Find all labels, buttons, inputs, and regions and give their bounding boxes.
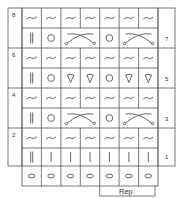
circle-icon — [48, 115, 55, 122]
knitting-chart: 8 6 4 2 7 5 3 1 — [0, 0, 193, 198]
cable-cross-icon — [65, 34, 95, 45]
cable-cross-icon — [123, 34, 153, 45]
purl-wave-icon — [104, 57, 114, 59]
purl-wave-icon — [85, 137, 95, 139]
row-3 — [31, 113, 154, 125]
circle-icon — [106, 115, 113, 122]
row-label-3: 3 — [165, 116, 169, 122]
teardrop-icon — [126, 74, 132, 82]
row-7 — [31, 33, 154, 45]
purl-wave-icon — [46, 57, 56, 59]
circle-icon — [48, 75, 55, 82]
row-2 — [27, 137, 154, 139]
row-1 — [31, 152, 149, 163]
purl-wave-icon — [143, 137, 153, 139]
circle-icon — [106, 75, 113, 82]
row-label-7: 7 — [165, 36, 169, 42]
row-label-8: 8 — [12, 12, 16, 18]
purl-wave-icon — [143, 17, 153, 19]
purl-wave-icon — [85, 57, 95, 59]
teardrop-icon — [87, 74, 93, 82]
purl-wave-icon — [46, 97, 56, 99]
teardrop-icon — [145, 74, 151, 82]
purl-wave-icon — [46, 137, 56, 139]
row-label-4: 4 — [12, 92, 16, 98]
purl-wave-icon — [124, 137, 134, 139]
oval-icon — [48, 174, 55, 178]
circle-icon — [48, 35, 55, 42]
row-cast-on — [28, 174, 151, 178]
purl-wave-icon — [66, 137, 76, 139]
row-4 — [27, 97, 154, 99]
row-label-2: 2 — [12, 132, 16, 138]
oval-icon — [87, 174, 94, 178]
purl-wave-icon — [66, 97, 76, 99]
repeat-label: Rep — [119, 187, 133, 196]
double-bar-icon — [31, 73, 33, 84]
purl-wave-icon — [124, 57, 134, 59]
purl-wave-icon — [27, 97, 37, 99]
purl-wave-icon — [27, 17, 37, 19]
purl-wave-icon — [46, 17, 56, 19]
left-row-labels: 8 6 4 2 — [12, 12, 16, 138]
purl-wave-icon — [104, 137, 114, 139]
oval-icon — [106, 174, 113, 178]
oval-icon — [126, 174, 133, 178]
row-6 — [27, 57, 154, 59]
purl-wave-icon — [85, 97, 95, 99]
double-bar-icon — [31, 152, 33, 163]
purl-wave-icon — [66, 57, 76, 59]
row-5 — [31, 73, 152, 84]
purl-wave-icon — [124, 97, 134, 99]
teardrop-icon — [67, 74, 73, 82]
row-label-6: 6 — [12, 52, 16, 58]
purl-wave-icon — [124, 17, 134, 19]
right-row-labels: 7 5 3 1 — [165, 36, 169, 160]
double-bar-icon — [31, 113, 33, 124]
row-label-1: 1 — [165, 154, 169, 160]
cable-cross-icon — [65, 114, 95, 125]
cable-cross-icon — [123, 114, 153, 125]
row-8 — [27, 17, 154, 19]
purl-wave-icon — [104, 97, 114, 99]
circle-icon — [106, 35, 113, 42]
oval-icon — [28, 174, 35, 178]
repeat-bracket: Rep — [100, 186, 155, 196]
purl-wave-icon — [104, 17, 114, 19]
purl-wave-icon — [143, 97, 153, 99]
oval-icon — [145, 174, 152, 178]
purl-wave-icon — [27, 137, 37, 139]
row-label-5: 5 — [165, 76, 169, 82]
oval-icon — [67, 174, 74, 178]
purl-wave-icon — [143, 57, 153, 59]
purl-wave-icon — [27, 57, 37, 59]
purl-wave-icon — [66, 17, 76, 19]
double-bar-icon — [31, 33, 33, 44]
purl-wave-icon — [85, 17, 95, 19]
